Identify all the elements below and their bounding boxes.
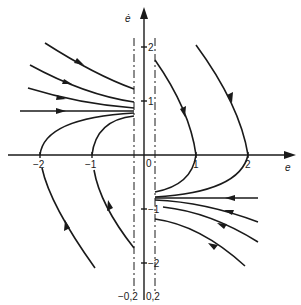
trajectory: [155, 155, 248, 197]
arrow-icon: [225, 195, 235, 201]
arrow-icon: [56, 108, 66, 114]
arrow-icon: [74, 58, 84, 65]
trajectories-upper-left: [20, 43, 134, 155]
x-axis-label: e: [285, 162, 291, 173]
trajectory: [155, 200, 258, 222]
axis-labels: e ė −2 −1 0 1 2 2 1 −1 −2: [33, 13, 291, 269]
trajectory: [196, 45, 248, 155]
y-tick-label: −1: [148, 204, 160, 215]
trajectory: [42, 168, 95, 268]
x-tick-label: −2: [33, 159, 45, 170]
trajectories-lower-left: [42, 168, 134, 268]
trajectories-lower-right: [155, 155, 258, 266]
trajectory: [92, 116, 134, 155]
trajectory: [45, 43, 134, 89]
y-axis-label: ė: [125, 13, 131, 24]
trajectory: [155, 60, 196, 155]
trajectories-upper-right: [155, 45, 248, 155]
trajectory: [28, 88, 134, 108]
trajectory: [94, 170, 134, 248]
dead-zone-right-label: 0,2: [146, 291, 160, 302]
x-axis-arrow-icon: [284, 151, 296, 159]
trajectory: [155, 155, 196, 192]
dead-zone-left-label: −0,2: [118, 291, 138, 302]
y-tick-label: 1: [148, 96, 154, 107]
arrow-icon: [62, 79, 72, 84]
x-tick-label: 0: [146, 158, 152, 169]
phase-plane-diagram: e ė −2 −1 0 1 2 2 1 −1 −2 −0,2 0,2: [0, 0, 301, 305]
arrow-icon: [180, 106, 186, 117]
y-tick-label: −2: [148, 258, 160, 269]
arrow-icon: [224, 210, 234, 215]
y-tick-label: 2: [148, 42, 154, 53]
trajectory: [155, 219, 245, 266]
y-axis-arrow-icon: [140, 7, 148, 19]
arrow-icon: [217, 223, 227, 229]
arrow-icon: [107, 200, 113, 211]
x-tick-label: −1: [85, 159, 97, 170]
